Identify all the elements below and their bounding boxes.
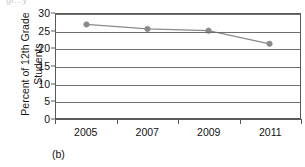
y-axis-tick-mark	[51, 83, 55, 84]
data-point-marker	[267, 41, 273, 46]
x-axis-tick-label: 2009	[197, 127, 220, 138]
y-axis-tick-label: 25	[32, 25, 50, 36]
x-axis-tick-label: 2005	[74, 127, 97, 138]
y-axis-tick-mark	[51, 13, 55, 14]
gridline	[56, 67, 300, 68]
data-point-marker	[84, 22, 90, 27]
gridline	[56, 32, 300, 33]
y-axis-tick-labels: 302520151050	[30, 0, 50, 167]
x-axis-tick-mark	[178, 119, 179, 124]
series-polyline	[87, 24, 270, 43]
gridline	[56, 102, 300, 103]
y-axis-label: Percent of 12th Grade Students	[2, 8, 30, 124]
x-axis-tick-mark	[55, 119, 56, 124]
x-axis-tick-label: 2007	[136, 127, 159, 138]
plot-area	[55, 13, 301, 119]
x-axis-tick-mark	[301, 119, 302, 124]
y-axis-tick-label: 15	[32, 61, 50, 72]
cropped-text-above-figure: gr...y	[6, 0, 27, 5]
y-axis-tick-mark	[51, 30, 55, 31]
x-axis-tick-mark	[240, 119, 241, 124]
figure-panel-b: gr...y Percent of 12th Grade Students 30…	[0, 0, 305, 167]
gridline	[56, 14, 300, 15]
figure-caption: (b)	[52, 148, 65, 160]
y-axis-tick-label: 30	[32, 8, 50, 19]
y-axis-tick-mark	[51, 101, 55, 102]
y-axis-tick-label: 10	[32, 78, 50, 89]
y-axis-tick-mark	[51, 48, 55, 49]
x-axis-tick-mark	[117, 119, 118, 124]
gridline	[56, 49, 300, 50]
y-axis-tick-mark	[51, 66, 55, 67]
y-axis-tick-label: 20	[32, 43, 50, 54]
x-axis-tick-label: 2011	[259, 127, 282, 138]
gridline	[56, 85, 300, 86]
y-axis-tick-label: 0	[32, 114, 50, 125]
y-axis-tick-label: 5	[32, 96, 50, 107]
